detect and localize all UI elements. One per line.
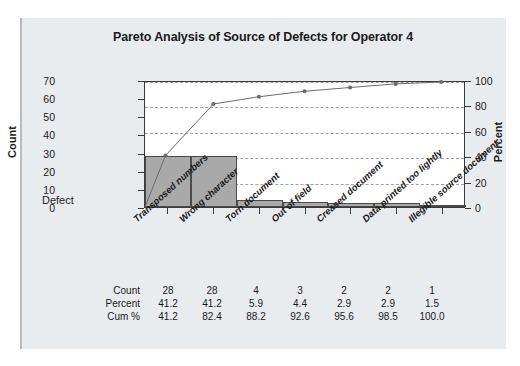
page-title: Pareto Analysis of Source of Defects for… [20,30,506,44]
table-cell: 41.2 [146,297,190,310]
y-tick-label: 10 [15,184,55,196]
table-cell: 28 [190,284,234,297]
table-cell: 1 [410,284,454,297]
y2-tick-mark [465,183,471,184]
y2-tick-label: 0 [475,202,515,214]
table-row-label: Cum % [60,310,146,323]
table-cell: 82.4 [190,310,234,323]
table-cell: 41.2 [190,297,234,310]
y-tick-label: 20 [15,166,55,178]
y2-tick-label: 20 [475,177,515,189]
y-tick-label: 40 [15,129,55,141]
line-marker [257,95,261,99]
table-cell: 4 [234,284,278,297]
table-cell: 2.9 [366,297,410,310]
y2-tick-mark [465,81,471,82]
y2-tick-mark [465,208,471,209]
line-marker [348,85,352,89]
y2-tick-mark [465,132,471,133]
x-tick-mark [350,208,351,214]
table-row: Count282843221 [60,284,454,297]
table-cell: 1.5 [410,297,454,310]
table-cell: 2 [322,284,366,297]
y2-tick-mark [465,106,471,107]
table-cell: 4.4 [278,297,322,310]
table-row: Cum %41.282.488.292.695.698.5100.0 [60,310,454,323]
table-cell: 92.6 [278,310,322,323]
line-marker [439,80,443,84]
table-cell: 5.9 [234,297,278,310]
x-tick-mark [259,208,260,214]
line-marker [302,89,306,93]
table-cell: 98.5 [366,310,410,323]
table-row: Percent41.241.25.94.42.92.91.5 [60,297,454,310]
table-cell: 28 [146,284,190,297]
line-marker [394,82,398,86]
table-cell: 100.0 [410,310,454,323]
data-table: Count282843221Percent41.241.25.94.42.92.… [60,284,454,323]
table-row-label: Percent [60,297,146,310]
y-tick-label: 50 [15,111,55,123]
table-cell: 2 [366,284,410,297]
x-tick-mark [305,208,306,214]
y-tick-label: 30 [15,148,55,160]
y-tick-label: 0 [15,202,55,214]
x-tick-mark [213,208,214,214]
x-tick-mark [167,208,168,214]
y2-tick-label: 60 [475,126,515,138]
y2-tick-label: 80 [475,100,515,112]
line-marker [211,102,215,106]
line-marker [163,153,167,157]
x-tick-mark [396,208,397,214]
y-tick-label: 70 [15,75,55,87]
x-tick-mark [442,208,443,214]
table-row-label: Count [60,284,146,297]
table-cell: 88.2 [234,310,278,323]
y-tick-label: 60 [15,93,55,105]
table-cell: 2.9 [322,297,366,310]
table-cell: 3 [278,284,322,297]
table-cell: 41.2 [146,310,190,323]
y2-tick-label: 100 [475,75,515,87]
table-cell: 95.6 [322,310,366,323]
chart-panel: Pareto Analysis of Source of Defects for… [20,18,506,349]
